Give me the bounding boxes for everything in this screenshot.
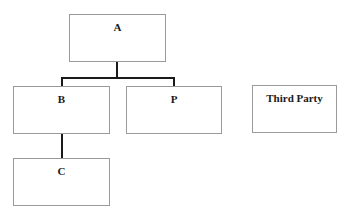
node-b: B xyxy=(13,86,110,134)
connector-horizontal-bar xyxy=(61,77,175,79)
connector-to-b xyxy=(61,77,63,86)
connector-to-p xyxy=(173,77,175,86)
node-a: A xyxy=(69,14,166,62)
node-a-label: A xyxy=(70,21,165,33)
node-b-label: B xyxy=(14,93,109,105)
node-third-party: Third Party xyxy=(252,85,337,133)
node-p-label: P xyxy=(127,93,221,105)
node-c-label: C xyxy=(14,165,109,177)
node-third-party-label: Third Party xyxy=(253,92,336,104)
connector-b-to-c xyxy=(61,134,63,158)
node-c: C xyxy=(13,158,110,206)
node-p: P xyxy=(126,86,222,134)
